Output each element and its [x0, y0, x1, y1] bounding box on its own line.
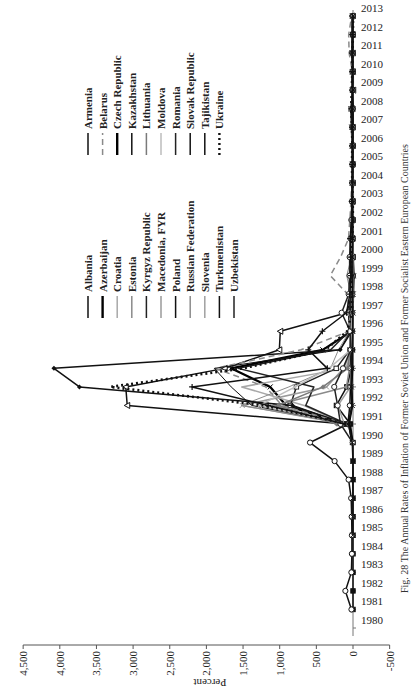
y-tick-label: 1,500 — [237, 651, 249, 676]
x-tick-label: 2007 — [361, 113, 384, 125]
legend-label: Poland — [170, 259, 182, 292]
legend-label: Romania — [170, 86, 182, 129]
series-line — [54, 16, 353, 424]
legend-label: Albania — [82, 254, 94, 292]
legend-label: Turkmenistan — [213, 226, 225, 292]
x-tick-label: 2011 — [361, 39, 383, 51]
y-tick-label: -500 — [384, 651, 396, 672]
series-line — [214, 16, 352, 424]
x-tick-label: 1980 — [361, 614, 384, 626]
y-tick-label: 4,500 — [17, 651, 29, 676]
x-tick-label: 1986 — [361, 503, 384, 515]
x-tick-label: 2002 — [361, 206, 383, 218]
x-tick-label: 1985 — [361, 521, 384, 533]
legend-label: Tajikistan — [199, 82, 211, 129]
x-tick-label: 2001 — [361, 225, 383, 237]
x-tick-label: 1988 — [361, 466, 384, 478]
x-tick-label: 1995 — [361, 336, 384, 348]
legend-label: Russian Federation — [184, 201, 196, 292]
x-tick-label: 2008 — [361, 95, 384, 107]
x-tick-label: 2005 — [361, 150, 384, 162]
x-tick-label: 1997 — [361, 299, 384, 311]
y-tick-label: 4,000 — [54, 651, 66, 676]
y-tick-label: 0 — [347, 651, 359, 657]
x-tick-label: 1991 — [361, 410, 383, 422]
line-chart: -50005001,0001,5002,0002,5003,0003,5004,… — [0, 0, 418, 693]
x-tick-label: 1981 — [361, 595, 383, 607]
y-tick-label: 1,000 — [274, 651, 286, 676]
legend-label: Macedonia, FYR — [155, 211, 167, 292]
chart-frame: -50005001,0001,5002,0002,5003,0003,5004,… — [0, 0, 418, 693]
x-tick-label: 2013 — [361, 2, 384, 14]
y-tick-label: 3,500 — [90, 651, 102, 676]
y-tick-label: 3,000 — [127, 651, 139, 676]
legend-label: Croatia — [111, 256, 123, 292]
series-line — [259, 16, 353, 424]
x-tick-label: 2010 — [361, 58, 384, 70]
x-tick-label: 1996 — [361, 317, 384, 329]
x-tick-label: 2003 — [361, 187, 384, 199]
rotated-chart-canvas: -50005001,0001,5002,0002,5003,0003,5004,… — [0, 0, 418, 693]
x-tick-label: 1993 — [361, 373, 384, 385]
x-tick-label: 1992 — [361, 391, 383, 403]
x-tick-label: 2000 — [361, 243, 384, 255]
legend: AlbaniaAzerbaijanCroatiaEstoniaKyrgyz Re… — [82, 52, 240, 318]
x-tick-label: 1989 — [361, 447, 384, 459]
legend-label: Uzbekistan — [228, 239, 240, 292]
legend-label: Estonia — [126, 256, 138, 292]
y-tick-label: 500 — [310, 651, 322, 668]
series-line — [192, 16, 353, 424]
y-tick-label: 2,500 — [164, 651, 176, 676]
legend-label: Slovak Republic — [184, 52, 196, 129]
y-axis-title: Percent — [194, 677, 227, 689]
legend-label: Czech Republic — [111, 55, 123, 129]
legend-label: Kyrgyz Republic — [140, 212, 152, 292]
x-tick-label: 1999 — [361, 262, 384, 274]
x-tick-label: 1982 — [361, 577, 383, 589]
x-tick-label: 1983 — [361, 558, 384, 570]
x-tick-label: 1987 — [361, 484, 384, 496]
legend-label: Lithuania — [140, 82, 152, 129]
y-tick-label: 2,000 — [200, 651, 212, 676]
legend-label: Armenia — [82, 87, 94, 129]
series-line — [278, 16, 353, 424]
legend-label: Moldova — [155, 87, 167, 129]
x-tick-label: 2012 — [361, 21, 383, 33]
legend-label: Slovenia — [199, 252, 211, 292]
legend-label: Kazakhstan — [126, 73, 138, 129]
x-tick-label: 2006 — [361, 132, 384, 144]
series-line — [215, 16, 352, 424]
legend-label: Azerbaijan — [97, 239, 109, 292]
x-tick-label: 1998 — [361, 280, 384, 292]
x-tick-label: 1994 — [361, 354, 384, 366]
legend-label: Ukraine — [213, 90, 225, 129]
x-tick-label: 1984 — [361, 540, 384, 552]
figure-caption: Fig. 28 The Annual Rates of Inflation of… — [399, 144, 410, 593]
x-tick-label: 2004 — [361, 169, 384, 181]
x-tick-label: 1990 — [361, 429, 384, 441]
legend-label: Belarus — [97, 92, 109, 129]
x-tick-label: 2009 — [361, 76, 384, 88]
